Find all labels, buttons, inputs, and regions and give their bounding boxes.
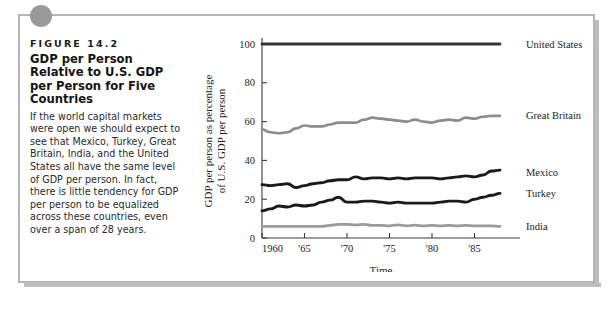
- y-axis-title: GDP per person as percentageof U.S. GDP …: [202, 75, 227, 208]
- series-line-mexico: [262, 170, 500, 187]
- series-label-mexico: Mexico: [526, 167, 558, 178]
- x-tick-label: '65: [298, 243, 310, 254]
- series-label-united-states: United States: [526, 39, 582, 50]
- y-axis: 020406080100: [239, 38, 267, 244]
- figure-container: FIGURE 14.2 GDP per Person Relative to U…: [0, 0, 615, 317]
- series-labels: United StatesGreat BritainMexicoTurkeyIn…: [526, 39, 582, 232]
- line-chart: 020406080100 1960'65'70'75'80'85 United …: [190, 22, 590, 272]
- y-axis-title-line-1: GDP per person as percentage: [202, 75, 214, 208]
- figure-caption-block: FIGURE 14.2 GDP per Person Relative to U…: [30, 38, 185, 237]
- series-line-great-britain: [262, 116, 500, 133]
- x-axis: 1960'65'70'75'80'85: [262, 233, 520, 254]
- chart-area: 020406080100 1960'65'70'75'80'85 United …: [190, 22, 590, 272]
- y-tick-label: 100: [239, 39, 255, 50]
- frame-shadow-bottom: [24, 283, 601, 287]
- series-label-india: India: [526, 221, 548, 232]
- series-lines: [262, 44, 500, 226]
- figure-description: If the world capital markets were open w…: [30, 111, 185, 237]
- y-tick-label: 60: [245, 116, 256, 127]
- series-line-turkey: [262, 193, 500, 210]
- x-tick-label: '70: [341, 243, 353, 254]
- y-axis-title-line-2: of U.S. GDP per person: [215, 88, 227, 193]
- series-line-india: [262, 224, 500, 226]
- x-tick-label: 1960: [262, 243, 283, 254]
- y-tick-label: 80: [245, 77, 256, 88]
- figure-number: FIGURE 14.2: [30, 38, 185, 50]
- x-tick-label: '85: [468, 243, 480, 254]
- series-label-great-britain: Great Britain: [526, 110, 582, 121]
- y-tick-label: 0: [250, 233, 255, 244]
- y-tick-label: 40: [245, 155, 256, 166]
- x-tick-label: '75: [383, 243, 395, 254]
- frame-shadow-right: [595, 20, 599, 287]
- decorative-circle-icon: [30, 5, 52, 27]
- x-axis-title: Time: [370, 264, 393, 272]
- y-tick-label: 20: [245, 194, 256, 205]
- figure-title: GDP per Person Relative to U.S. GDP per …: [30, 53, 185, 107]
- series-label-turkey: Turkey: [526, 188, 557, 199]
- x-tick-label: '80: [426, 243, 438, 254]
